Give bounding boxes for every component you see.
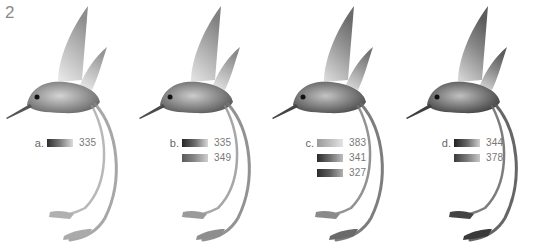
- panel-label: c.: [305, 137, 314, 149]
- legend-row: 349: [182, 150, 231, 165]
- panel-label: d.: [442, 137, 451, 149]
- legend-row: 378: [454, 150, 503, 165]
- hummingbird-illustration: [266, 0, 399, 246]
- legend-row: 341: [317, 150, 366, 165]
- hummingbird-illustration: [0, 0, 133, 246]
- color-swatch: [47, 139, 73, 147]
- legend: b. 335 349: [182, 135, 231, 165]
- color-swatch: [317, 139, 343, 147]
- legend-row: d. 344: [454, 135, 503, 150]
- swatch-value: 341: [349, 152, 366, 163]
- legend: c. 383 341 327: [317, 135, 366, 180]
- swatch-value: 335: [214, 137, 231, 148]
- legend-row: c. 383: [317, 135, 366, 150]
- swatch-value: 383: [349, 137, 366, 148]
- color-swatch: [317, 154, 343, 162]
- panel-d: d. 344 378: [400, 0, 533, 246]
- color-swatch: [454, 139, 480, 147]
- legend-row: b. 335: [182, 135, 231, 150]
- hummingbird-illustration: [400, 0, 533, 246]
- color-swatch: [182, 154, 208, 162]
- hummingbird-illustration: [133, 0, 266, 246]
- color-swatch: [182, 139, 208, 147]
- legend-row: 327: [317, 165, 366, 180]
- panel-a: a. 335: [0, 0, 133, 246]
- panel-c: c. 383 341 327: [266, 0, 399, 246]
- panel-label: b.: [170, 137, 179, 149]
- panel-b: b. 335 349: [133, 0, 266, 246]
- color-swatch: [454, 154, 480, 162]
- panel-label: a.: [35, 137, 44, 149]
- swatch-value: 327: [349, 167, 366, 178]
- color-swatch: [317, 169, 343, 177]
- swatch-value: 335: [79, 137, 96, 148]
- swatch-value: 344: [486, 137, 503, 148]
- swatch-value: 378: [486, 152, 503, 163]
- swatch-value: 349: [214, 152, 231, 163]
- legend-row: a. 335: [47, 135, 96, 150]
- legend: a. 335: [47, 135, 96, 150]
- legend: d. 344 378: [454, 135, 503, 165]
